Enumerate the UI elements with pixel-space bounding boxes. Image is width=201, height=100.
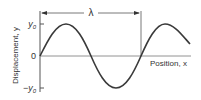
tick-label-zero: 0	[31, 51, 36, 61]
tick-label-neg-y0: −y0	[23, 83, 37, 94]
wavelength-label: λ	[89, 7, 94, 18]
arrow-right-icon	[134, 11, 140, 15]
arrow-left-icon	[41, 11, 47, 15]
wave-diagram: λ y0 0 −y0 Position, x Displacement, y	[0, 0, 201, 100]
x-axis-label: Position, x	[150, 59, 187, 68]
tick-label-y0: y0	[27, 19, 37, 30]
y-axis-label: Displacement, y	[11, 27, 20, 84]
